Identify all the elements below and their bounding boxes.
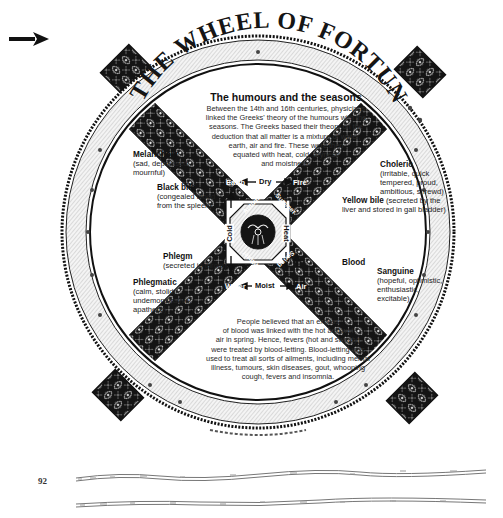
intro-line: Between the 14th and 16th centuries, phy… [178,104,394,113]
humour-name: Black bile [157,183,215,192]
intro-line: deduction that all matter is a mixture o… [178,132,394,141]
quality-cold: Cold [225,224,234,243]
intro-line: linked the Greeks' theory of the humours… [178,113,394,122]
temperament-choleric: Choleric (irritable, quick tempered, pro… [380,160,444,196]
humour-desc: (secreted in throat) [163,261,227,270]
humour-yellow-bile: Yellow bile (secreted by the liver and s… [342,196,446,214]
humour-desc: (congealed blood [157,192,215,201]
temperament-desc: (hopeful, optimistic, [377,276,442,285]
temperament-name: Phlegmatic [133,278,191,287]
temperament-phlegmatic: Phlegmatic (calm, stolid, undemonstrativ… [133,278,191,314]
rim-teeth [210,430,306,435]
intro-line: earth, air and fire. These were then [178,141,394,150]
bloodletting-line: of blood was linked with the hot and wet [196,326,380,335]
decorative-bands [76,470,486,507]
temperament-desc: (irritable, quick [380,169,444,178]
humour-desc: liver and stored in gall bladder) [342,205,446,214]
temperament-name: Melancholy [133,150,190,159]
humour-blood: Blood [342,258,365,267]
temperament-melancholy: Melancholy (sad, depressed, mournful) [133,150,190,177]
bloodletting-line: used to treat all sorts of ailments, inc… [196,354,380,363]
temperament-desc: excitable) [377,294,442,303]
bloodletting-line: were treated by blood-letting. Blood-let… [196,345,380,354]
temperament-desc: (calm, stolid, [133,287,191,296]
humour-desc: (secreted by the [386,196,440,205]
bloodletting-line: People believed that an excess [196,317,380,326]
temperament-desc: (sad, depressed, [133,159,190,168]
bloodletting-paragraph: People believed that an excess of blood … [196,317,380,381]
intro-line: equated with heat, cold, dryness [178,150,394,159]
temperament-sanguine: Sanguine (hopeful, optimistic, enthusias… [377,267,442,303]
element-water: Water [225,282,246,291]
bloodletting-line: illness, tumours, skin diseases, gout, w… [196,363,380,372]
humour-phlegm: Phlegm (secreted in throat) [163,252,227,270]
humour-name: Phlegm [163,252,227,261]
temperament-desc: enthusiastic, [377,285,442,294]
humour-black-bile: Black bile (congealed blood from the spl… [157,183,215,210]
intro-title: The humours and the seasons [186,91,386,103]
arrow-right-icon [9,32,49,46]
temperament-desc: ambitious, shrewd) [380,187,444,196]
humour-desc: from the spleen) [157,201,215,210]
quality-moist: Moist [254,281,276,290]
temperament-desc: tempered, proud, [380,178,444,187]
bloodletting-line: cough, fevers and insomnia. [196,372,380,381]
temperament-name: Sanguine [377,267,442,276]
intro-paragraph: Between the 14th and 16th centuries, phy… [178,104,394,168]
element-fire: Fire [293,178,307,187]
humour-name: Yellow bile [342,196,384,205]
temperament-desc: apathetic) [133,305,191,314]
temperament-desc: undemonstrative, [133,296,191,305]
wheel-hub [226,200,290,264]
intro-line: and moistness. [178,159,394,168]
element-earth: Earth [226,178,245,187]
quality-heat: Heat [282,224,291,242]
element-air: Air [296,282,306,291]
bloodletting-line: air in spring. Hence, fevers (hot and sw… [196,335,380,344]
quality-dry: Dry [258,177,273,186]
page-number: 92 [38,476,47,486]
temperament-desc: mournful) [133,168,190,177]
intro-line: seasons. The Greeks based their theory o… [178,122,394,131]
temperament-name: Choleric [380,160,444,169]
